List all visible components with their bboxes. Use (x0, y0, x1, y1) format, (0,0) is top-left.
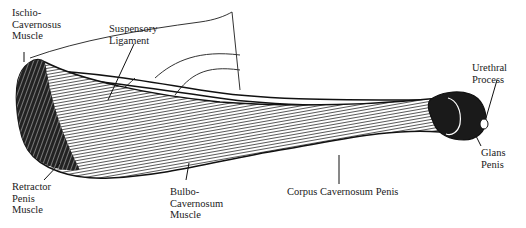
label-line: Penis (12, 193, 51, 205)
label-line: Urethral (472, 62, 507, 74)
label-ischio-cavernosus-muscle: Ischio- Cavernosus Muscle (12, 7, 61, 42)
label-bulbo-cavernosum-muscle: Bulbo- Cavernosum Muscle (170, 186, 223, 221)
label-line: Process (472, 74, 507, 86)
label-line: Penis (481, 159, 506, 171)
label-urethral-process: Urethral Process (472, 62, 507, 85)
label-line: Cavernosum (170, 198, 223, 210)
label-line: Bulbo- (170, 186, 223, 198)
label-line: Muscle (12, 30, 61, 42)
label-line: Ischio- (12, 7, 61, 19)
label-line: Ligament (109, 35, 157, 47)
label-retractor-penis-muscle: Retractor Penis Muscle (12, 181, 51, 216)
label-line: Retractor (12, 181, 51, 193)
label-corpus-cavernosum-penis: Corpus Cavernosum Penis (287, 186, 398, 198)
penis-anatomy-illustration (0, 0, 526, 228)
label-line: Glans (481, 147, 506, 159)
label-line: Cavernosus (12, 19, 61, 31)
label-line: Suspensory (109, 23, 157, 35)
corpus-cavernosum-body (16, 60, 458, 178)
label-suspensory-ligament: Suspensory Ligament (109, 23, 157, 46)
glans-penis-drawing (428, 92, 488, 140)
label-glans-penis: Glans Penis (481, 147, 506, 170)
label-line: Muscle (12, 204, 51, 216)
label-line: Muscle (170, 209, 223, 221)
label-line: Corpus Cavernosum Penis (287, 186, 398, 198)
